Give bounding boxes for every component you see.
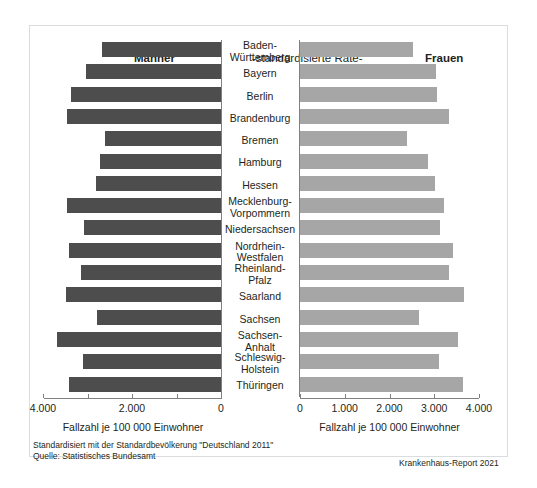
category-label: Bayern <box>224 68 296 80</box>
category-label-line: Rheinland- <box>224 263 296 275</box>
bar-men <box>100 154 221 169</box>
bar-men <box>69 377 221 392</box>
category-label-line: Bayern <box>224 68 296 80</box>
category-label: Thüringen <box>224 380 296 392</box>
category-label: Sachsen-Anhalt <box>224 330 296 353</box>
category-label-line: Württemberg <box>224 52 296 64</box>
right-axis-title: Fallzahl je 100 000 Einwohner <box>300 421 479 433</box>
bar-women <box>300 243 453 258</box>
right-tick-2000-mark <box>390 394 391 398</box>
report-credit: Krankenhaus-Report 2021 <box>399 458 499 468</box>
bar-women <box>300 154 428 169</box>
axis-separator-left <box>221 40 222 397</box>
bar-men <box>102 42 221 57</box>
category-label: Saarland <box>224 291 296 303</box>
right-tick-3000-label: 3.000 <box>409 402 459 414</box>
category-label: Hessen <box>224 180 296 192</box>
bar-men <box>97 310 221 325</box>
category-label-line: Hessen <box>224 180 296 192</box>
right-tick-0-mark <box>300 394 301 398</box>
category-label: Nordrhein-Westfalen <box>224 241 296 264</box>
women-column-header: Frauen <box>425 52 463 64</box>
bar-men <box>96 176 221 191</box>
category-label-line: Holstein <box>224 364 296 376</box>
footnote-standardization: Standardisiert mit der Standardbevölkeru… <box>33 440 273 450</box>
bar-men <box>57 332 221 347</box>
category-label-line: Hamburg <box>224 157 296 169</box>
category-label: Brandenburg <box>224 113 296 125</box>
category-label: Hamburg <box>224 157 296 169</box>
left-tick-3000-mark <box>88 394 89 398</box>
axis-separator-right <box>299 40 300 397</box>
bar-women <box>300 220 440 235</box>
category-label-line: Sachsen- <box>224 330 296 342</box>
bar-women <box>300 64 436 79</box>
category-label-line: Berlin <box>224 91 296 103</box>
left-tick-2000-mark <box>132 394 133 398</box>
bar-women <box>300 198 444 213</box>
category-label-line: Baden- <box>224 40 296 52</box>
left-axis-title: Fallzahl je 100 000 Einwohner <box>44 421 222 433</box>
right-tick-0-label: 0 <box>275 402 325 414</box>
left-tick-2000-label: 2.000 <box>107 402 157 414</box>
bar-women <box>300 354 439 369</box>
category-label: Schleswig-Holstein <box>224 352 296 375</box>
category-label-line: Vorpommern <box>224 208 296 220</box>
category-label: Mecklenburg-Vorpommern <box>224 196 296 219</box>
right-tick-1000-label: 1.000 <box>320 402 370 414</box>
category-label: Bremen <box>224 135 296 147</box>
left-tick-4000-label: 4.000 <box>18 402 68 414</box>
bar-men <box>71 87 221 102</box>
right-tick-3000-mark <box>434 394 435 398</box>
category-label-line: Pfalz <box>224 275 296 287</box>
bar-men <box>67 198 221 213</box>
left-tick-4000-mark <box>43 394 44 398</box>
bar-women <box>300 42 413 57</box>
bar-women <box>300 287 464 302</box>
bar-women <box>300 176 435 191</box>
category-label-line: Niedersachsen <box>224 224 296 236</box>
category-label-line: Sachsen <box>224 314 296 326</box>
bar-men <box>67 109 221 124</box>
category-label: Sachsen <box>224 314 296 326</box>
bar-women <box>300 87 437 102</box>
left-tick-0-mark <box>221 394 222 398</box>
right-tick-4000-label: 4.000 <box>454 402 504 414</box>
bar-men <box>81 265 221 280</box>
right-tick-2000-label: 2.000 <box>365 402 415 414</box>
category-label-line: Brandenburg <box>224 113 296 125</box>
bar-men <box>86 64 221 79</box>
bar-women <box>300 332 458 347</box>
bar-men <box>84 220 221 235</box>
category-label: Rheinland-Pfalz <box>224 263 296 286</box>
bar-men <box>83 354 221 369</box>
bar-men <box>69 243 221 258</box>
bar-men <box>66 287 221 302</box>
category-label-line: Bremen <box>224 135 296 147</box>
footnote-source: Quelle: Statistisches Bundesamt <box>33 451 155 461</box>
category-label-line: Thüringen <box>224 380 296 392</box>
category-label-line: Saarland <box>224 291 296 303</box>
left-axis-line <box>44 398 222 399</box>
category-label: Baden-Württemberg <box>224 40 296 63</box>
left-tick-0-label: 0 <box>196 402 246 414</box>
category-label: Niedersachsen <box>224 224 296 236</box>
bar-men <box>105 131 221 146</box>
right-axis-line <box>300 398 479 399</box>
bar-women <box>300 377 463 392</box>
right-tick-1000-mark <box>345 394 346 398</box>
right-tick-4000-mark <box>479 394 480 398</box>
left-tick-1000-mark <box>177 394 178 398</box>
bar-women <box>300 109 449 124</box>
category-label: Berlin <box>224 91 296 103</box>
bar-women <box>300 310 419 325</box>
bar-women <box>300 131 407 146</box>
bar-women <box>300 265 449 280</box>
